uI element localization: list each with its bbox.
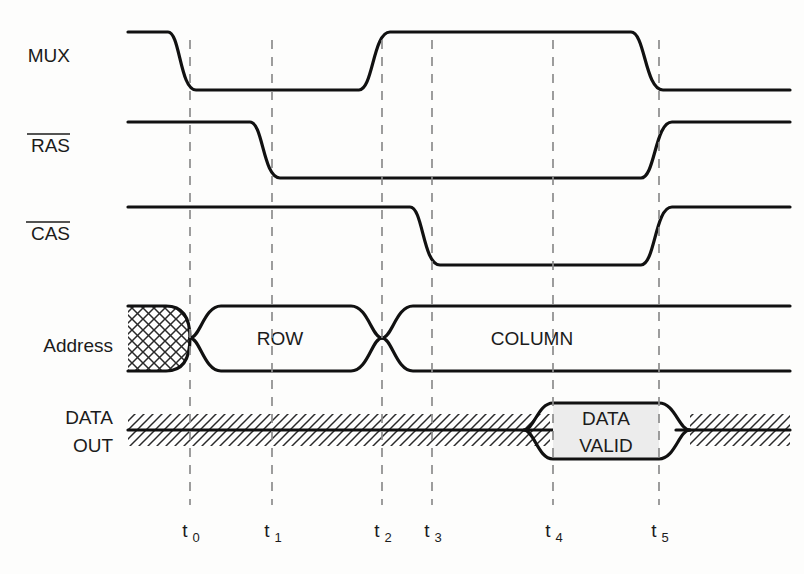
address-column-top xyxy=(382,306,790,338)
time-marker-label-t3: t 3 xyxy=(424,520,441,545)
data-valid-label-line1: DATA xyxy=(582,408,630,429)
time-marker-label-t1: t 1 xyxy=(264,520,281,545)
signal-label-data-out-line2: OUT xyxy=(73,435,114,456)
tick-t1-subscript: 1 xyxy=(274,530,281,545)
tick-t4-subscript: 4 xyxy=(555,530,562,545)
time-marker-label-t4: t 4 xyxy=(545,520,562,545)
time-marker-label-t2: t 2 xyxy=(374,520,391,545)
signal-label-mux: MUX xyxy=(28,45,71,66)
waveform-mux xyxy=(128,32,790,90)
tick-t5-subscript: 5 xyxy=(661,530,668,545)
address-row-value: ROW xyxy=(257,328,304,349)
waveform-address: ROW COLUMN xyxy=(128,306,790,371)
cas-trace xyxy=(128,207,790,265)
signal-label-cas-group: CAS xyxy=(26,222,70,244)
signal-label-ras-group: RAS xyxy=(27,134,70,156)
tick-t0-base: t xyxy=(182,520,188,541)
waveform-ras xyxy=(128,122,790,178)
address-segment-row: ROW xyxy=(190,306,382,371)
tick-t5-base: t xyxy=(651,520,657,541)
address-dontcare-fill xyxy=(128,306,190,371)
address-column-value: COLUMN xyxy=(491,328,573,349)
signal-label-data-out-line1: DATA xyxy=(65,407,113,428)
signal-label-address: Address xyxy=(43,335,113,356)
tick-t2-subscript: 2 xyxy=(384,530,391,545)
data-out-hiz-left xyxy=(128,414,553,446)
timing-diagram: MUX RAS CAS Address DATA OUT xyxy=(0,0,804,574)
address-crosshatch-region xyxy=(128,306,190,371)
signal-labels: MUX RAS CAS Address DATA OUT xyxy=(26,45,113,456)
ras-trace xyxy=(128,122,790,178)
address-column-bottom xyxy=(382,338,790,371)
tick-t0-subscript: 0 xyxy=(192,530,199,545)
tick-t2-base: t xyxy=(374,520,380,541)
time-marker-label-t0: t 0 xyxy=(182,520,199,545)
data-valid-label-line2: VALID xyxy=(579,435,633,456)
address-segment-column: COLUMN xyxy=(382,306,790,371)
tick-t3-base: t xyxy=(424,520,430,541)
time-marker-label-t5: t 5 xyxy=(651,520,668,545)
mux-trace xyxy=(128,32,790,90)
waveform-cas xyxy=(128,207,790,265)
time-marker-labels: t 0 t 1 t 2 t 3 t 4 t 5 xyxy=(182,520,668,545)
data-out-hiz-right xyxy=(676,414,790,446)
tick-t3-subscript: 3 xyxy=(434,530,441,545)
tick-t4-base: t xyxy=(545,520,551,541)
timing-diagram-canvas: MUX RAS CAS Address DATA OUT xyxy=(0,0,804,574)
waveform-data-out: DATA VALID xyxy=(128,403,790,459)
signal-label-ras: RAS xyxy=(31,135,70,156)
tick-t1-base: t xyxy=(264,520,270,541)
signal-label-cas: CAS xyxy=(31,223,70,244)
